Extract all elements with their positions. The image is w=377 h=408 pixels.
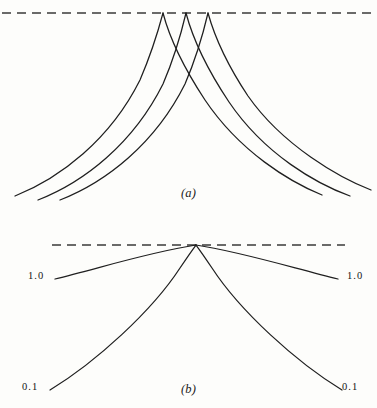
curve-b-0p1-left-branch [50, 245, 196, 390]
curve-label-lower-left: 0.1 [22, 381, 38, 392]
panel-a-plot [0, 0, 377, 212]
curve-a1-right-branch [163, 13, 322, 195]
curve-label-upper-left: 1.0 [28, 270, 44, 281]
curve-b-1p0-left-branch [55, 245, 196, 279]
curve-label-upper-right: 1.0 [347, 270, 363, 281]
curve-b-1p0-right-branch [196, 245, 338, 279]
curve-a3-left-branch [60, 13, 208, 200]
curve-a2-right-branch [186, 13, 350, 196]
panel-a: (a) [0, 0, 377, 212]
panel-b-caption: (b) [0, 382, 377, 397]
panel-b: (b) [0, 212, 377, 408]
curve-b-0p1-right-branch [196, 245, 342, 390]
curve-a1-left-branch [15, 13, 163, 196]
figure-container: (a) (b) 1.0 1.0 0.1 0.1 [0, 0, 377, 408]
panel-a-caption: (a) [0, 186, 377, 201]
panel-b-plot [0, 212, 377, 408]
curve-label-lower-right: 0.1 [342, 381, 358, 392]
